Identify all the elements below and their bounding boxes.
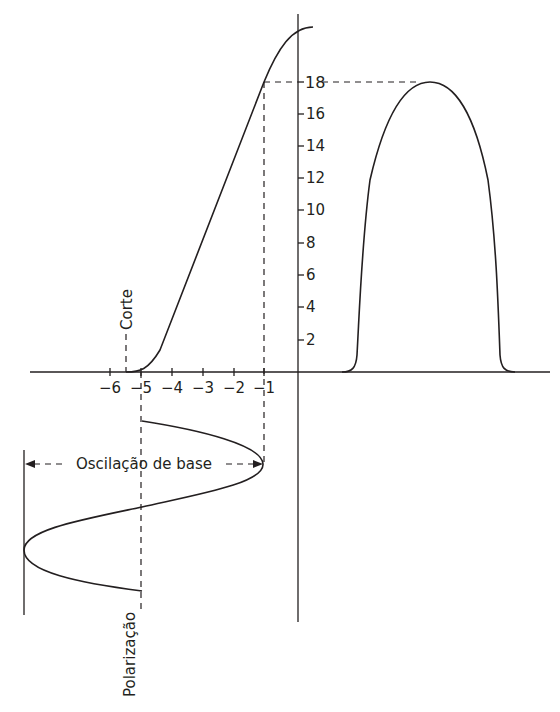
svg-text:6: 6 xyxy=(306,266,316,284)
svg-text:−5: −5 xyxy=(130,379,152,397)
bias-label: Polarização xyxy=(121,612,139,697)
transfer-curve xyxy=(126,27,313,372)
svg-text:14: 14 xyxy=(306,137,325,155)
svg-text:−6: −6 xyxy=(99,379,121,397)
svg-text:4: 4 xyxy=(306,298,316,316)
svg-text:10: 10 xyxy=(306,201,325,219)
input-waveform xyxy=(24,421,263,591)
guide-lines xyxy=(34,82,420,612)
svg-text:16: 16 xyxy=(306,105,325,123)
output-waveform xyxy=(342,82,515,372)
y-axis-ticks xyxy=(298,82,304,340)
arrow-right-icon xyxy=(253,460,263,468)
svg-text:−4: −4 xyxy=(161,379,183,397)
base-swing-label: Oscilação de base xyxy=(76,455,212,473)
transfer-characteristic-diagram: −6 −5 −4 −3 −2 −1 2 4 6 8 10 12 14 16 18… xyxy=(0,0,560,712)
svg-text:2: 2 xyxy=(306,331,316,349)
svg-text:−1: −1 xyxy=(253,379,275,397)
svg-text:18: 18 xyxy=(305,73,325,92)
svg-text:12: 12 xyxy=(306,169,325,187)
svg-text:8: 8 xyxy=(306,234,316,252)
svg-text:−2: −2 xyxy=(223,379,245,397)
cutoff-label: Corte xyxy=(118,289,136,330)
y-tick-labels: 2 4 6 8 10 12 14 16 18 xyxy=(305,73,325,349)
svg-text:−3: −3 xyxy=(192,379,214,397)
x-tick-labels: −6 −5 −4 −3 −2 −1 xyxy=(99,379,275,397)
arrow-left-icon xyxy=(25,460,35,468)
